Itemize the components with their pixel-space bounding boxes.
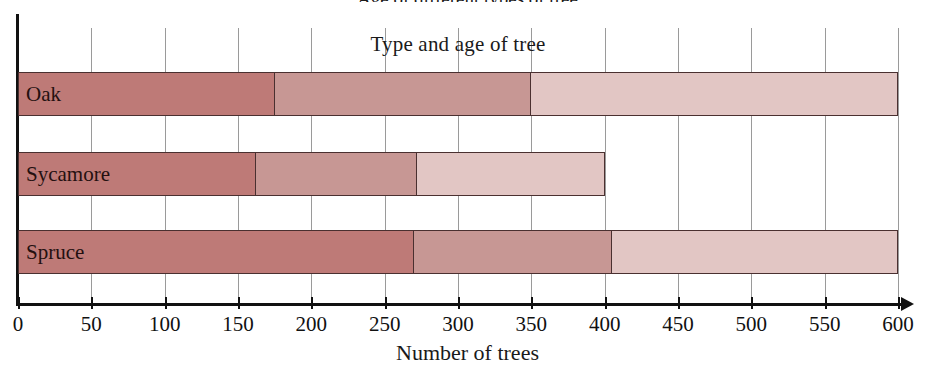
x-tick-label: 500	[736, 312, 768, 337]
x-tick	[751, 297, 753, 309]
bar-row-spruce: Spruce	[18, 230, 898, 274]
bar-row-sycamore: Sycamore	[18, 152, 898, 196]
x-tick-label: 300	[442, 312, 474, 337]
x-tick	[678, 297, 680, 309]
x-tick-label: 550	[809, 312, 841, 337]
bar-label-oak: Oak	[26, 82, 61, 107]
bar-label-sycamore: Sycamore	[26, 162, 110, 187]
x-tick-label: 0	[13, 312, 24, 337]
x-axis-arrow-icon	[901, 297, 914, 311]
bar-segment	[530, 72, 898, 116]
x-tick-label: 50	[81, 312, 102, 337]
x-tick	[458, 297, 460, 309]
x-tick	[825, 297, 827, 309]
plot-area: Type and age of tree Oak Sycamore Spruce	[18, 28, 898, 300]
x-tick-label: 250	[369, 312, 401, 337]
x-tick	[165, 297, 167, 309]
x-tick	[238, 297, 240, 309]
stacked-bar	[18, 72, 898, 116]
stacked-bar	[18, 230, 898, 274]
x-tick-label: 600	[882, 312, 914, 337]
x-tick	[18, 297, 20, 309]
x-tick-label: 200	[296, 312, 328, 337]
x-tick	[385, 297, 387, 309]
x-axis-line	[16, 303, 908, 306]
bar-segment	[274, 72, 532, 116]
x-tick	[91, 297, 93, 309]
x-tick-label: 350	[516, 312, 548, 337]
x-tick	[311, 297, 313, 309]
bar-label-spruce: Spruce	[26, 240, 84, 265]
x-tick	[531, 297, 533, 309]
chart-title: Type and age of tree	[18, 32, 898, 57]
bar-segment	[413, 230, 612, 274]
x-tick	[605, 297, 607, 309]
clipped-top-title: Age of different types of tree	[0, 0, 935, 2]
x-tick-label: 150	[222, 312, 254, 337]
x-tick	[898, 297, 900, 309]
bar-segment	[611, 230, 898, 274]
x-tick-label: 400	[589, 312, 621, 337]
x-tick-label: 100	[149, 312, 181, 337]
bar-segment	[416, 152, 605, 196]
x-tick-label: 450	[662, 312, 694, 337]
x-axis-label: Number of trees	[0, 340, 935, 366]
bar-row-oak: Oak	[18, 72, 898, 116]
bar-segment	[255, 152, 417, 196]
gridline	[898, 28, 899, 300]
